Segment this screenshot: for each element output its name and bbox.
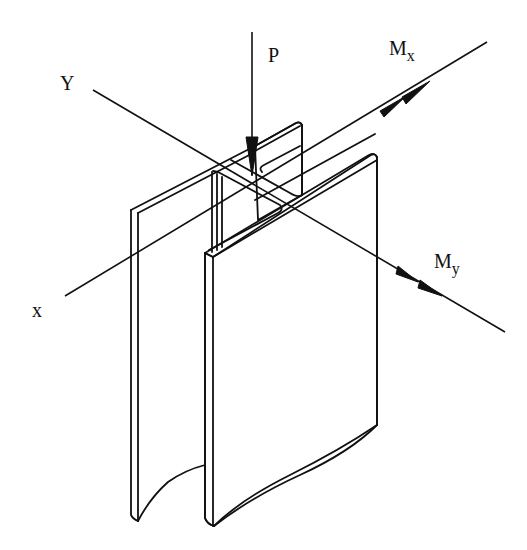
label-mx-base: M (389, 37, 407, 59)
label-mx: Mx (389, 37, 415, 64)
right-flange (205, 154, 377, 526)
label-p: P (268, 44, 279, 66)
label-mx-sub: x (407, 47, 415, 64)
label-x-axis: x (32, 299, 42, 321)
h-section-column-diagram: P Mx My Y x (0, 0, 527, 550)
my-arrowhead-1 (396, 266, 418, 282)
label-my-base: M (434, 250, 452, 272)
my-arrowhead-2 (418, 280, 442, 296)
label-my: My (434, 250, 460, 278)
label-y-axis: Y (60, 72, 74, 94)
label-my-sub: y (452, 260, 460, 278)
